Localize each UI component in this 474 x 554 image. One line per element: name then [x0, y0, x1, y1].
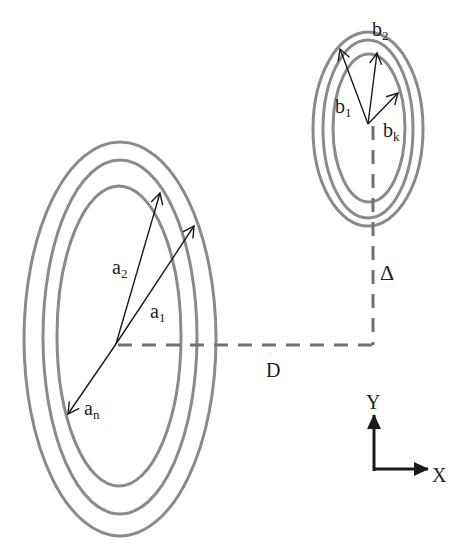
small-coil — [313, 32, 423, 226]
label-x-axis: X — [432, 464, 447, 486]
coil-diagram: a2 a1 an b1 b2 bk D Δ Y X — [0, 0, 474, 554]
label-horizontal-offset-d: D — [266, 359, 280, 381]
label-vertical-offset-delta: Δ — [380, 260, 394, 285]
small-coil-inner-ring — [333, 54, 405, 202]
large-coil-vectors — [68, 193, 194, 414]
small-coil-middle-ring — [323, 40, 413, 218]
label-bk: bk — [383, 119, 400, 144]
small-coil-outer-ring — [313, 32, 423, 226]
labels: a2 a1 an b1 b2 bk D Δ Y X — [84, 18, 447, 486]
coordinate-axes — [373, 415, 428, 471]
label-y-axis: Y — [366, 391, 380, 413]
label-b1: b1 — [335, 95, 352, 120]
vector-b2-arrow — [368, 53, 377, 124]
label-an: an — [84, 397, 100, 422]
label-a1: a1 — [150, 300, 165, 325]
label-b2: b2 — [372, 18, 389, 43]
label-a2: a2 — [112, 256, 127, 281]
